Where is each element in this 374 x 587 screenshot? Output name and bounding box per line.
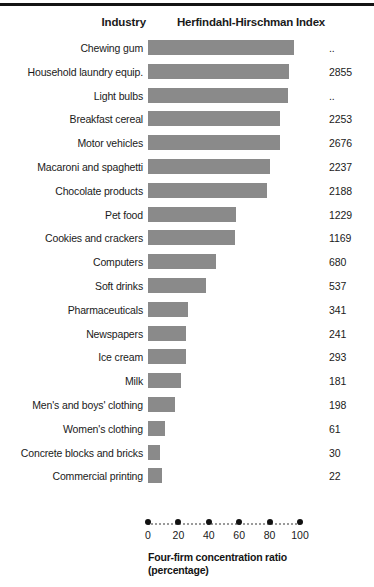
bar-concentration-ratio [148,397,175,412]
table-row: Computers680 [0,254,374,278]
bar-concentration-ratio [148,207,236,222]
x-axis-caption: Four-firm concentration ratio (percentag… [148,551,368,577]
row-value-hhi: 1229 [329,208,374,223]
bar-concentration-ratio [148,278,206,293]
row-value-hhi: 2676 [329,136,374,151]
row-value-hhi: 2188 [329,184,374,199]
bar-chart-plot-area: Chewing gum..Household laundry equip.285… [0,40,374,510]
x-axis-tick-dot [297,519,303,525]
column-header-industry: Industry [0,16,146,28]
x-axis: 020406080100 [0,519,374,547]
row-value-hhi: 181 [329,374,374,389]
bar-concentration-ratio [148,421,165,436]
row-label-industry: Men's and boys' clothing [0,398,143,413]
bar-concentration-ratio [148,111,280,126]
table-row: Ice cream293 [0,349,374,373]
row-value-hhi: 293 [329,350,374,365]
bar-concentration-ratio [148,326,186,341]
row-label-industry: Motor vehicles [0,136,143,151]
row-value-hhi: .. [329,41,374,56]
bar-concentration-ratio [148,254,216,269]
row-label-industry: Pet food [0,208,143,223]
row-label-industry: Ice cream [0,350,143,365]
bar-concentration-ratio [148,468,162,483]
row-value-hhi: 680 [329,255,374,270]
bar-concentration-ratio [148,183,267,198]
x-axis-caption-line-2: (percentage) [148,564,368,577]
table-row: Newspapers241 [0,326,374,350]
row-value-hhi: 2855 [329,65,374,80]
bar-concentration-ratio [148,40,294,55]
table-row: Chewing gum.. [0,40,374,64]
top-divider-rule [0,3,374,6]
row-value-hhi: 537 [329,279,374,294]
row-label-industry: Women's clothing [0,422,143,437]
x-axis-tick-dot [145,519,151,525]
row-label-industry: Household laundry equip. [0,65,143,80]
row-value-hhi: 2237 [329,160,374,175]
bar-concentration-ratio [148,445,160,460]
table-row: Breakfast cereal2253 [0,111,374,135]
row-label-industry: Concrete blocks and bricks [0,446,143,461]
table-row: Light bulbs.. [0,88,374,112]
column-header-hhi: Herfindahl-Hirschman Index [146,16,356,28]
table-row: Chocolate products2188 [0,183,374,207]
bar-concentration-ratio [148,64,289,79]
row-value-hhi: 30 [329,446,374,461]
row-label-industry: Macaroni and spaghetti [0,160,143,175]
table-row: Women's clothing61 [0,421,374,445]
table-row: Motor vehicles2676 [0,135,374,159]
x-axis-caption-line-1: Four-firm concentration ratio [148,551,287,563]
row-label-industry: Pharmaceuticals [0,303,143,318]
x-axis-tick-label: 100 [280,529,320,541]
row-label-industry: Breakfast cereal [0,112,143,127]
row-label-industry: Milk [0,374,143,389]
bar-concentration-ratio [148,159,270,174]
column-headers: Industry Herfindahl-Hirschman Index [0,16,374,36]
table-row: Commercial printing22 [0,468,374,492]
bar-concentration-ratio [148,302,188,317]
row-label-industry: Commercial printing [0,469,143,484]
table-row: Men's and boys' clothing198 [0,397,374,421]
table-row: Milk181 [0,373,374,397]
row-value-hhi: 61 [329,422,374,437]
row-value-hhi: 22 [329,469,374,484]
row-value-hhi: 341 [329,303,374,318]
table-row: Macaroni and spaghetti2237 [0,159,374,183]
bar-concentration-ratio [148,230,235,245]
table-row: Pet food1229 [0,207,374,231]
bar-concentration-ratio [148,88,288,103]
table-row: Soft drinks537 [0,278,374,302]
table-row: Cookies and crackers1169 [0,230,374,254]
row-label-industry: Chocolate products [0,184,143,199]
x-axis-dotted-line [148,523,300,526]
row-label-industry: Soft drinks [0,279,143,294]
bar-concentration-ratio [148,135,280,150]
bar-concentration-ratio [148,349,186,364]
x-axis-tick-dot [206,519,212,525]
row-label-industry: Computers [0,255,143,270]
row-label-industry: Newspapers [0,327,143,342]
row-value-hhi: 1169 [329,231,374,246]
table-row: Pharmaceuticals341 [0,302,374,326]
row-label-industry: Light bulbs [0,89,143,104]
row-value-hhi: 241 [329,327,374,342]
row-label-industry: Chewing gum [0,41,143,56]
row-value-hhi: 2253 [329,112,374,127]
table-row: Household laundry equip.2855 [0,64,374,88]
x-axis-tick-dot [267,519,273,525]
row-label-industry: Cookies and crackers [0,231,143,246]
bar-concentration-ratio [148,373,181,388]
row-value-hhi: 198 [329,398,374,413]
table-row: Concrete blocks and bricks30 [0,445,374,469]
row-value-hhi: .. [329,89,374,104]
